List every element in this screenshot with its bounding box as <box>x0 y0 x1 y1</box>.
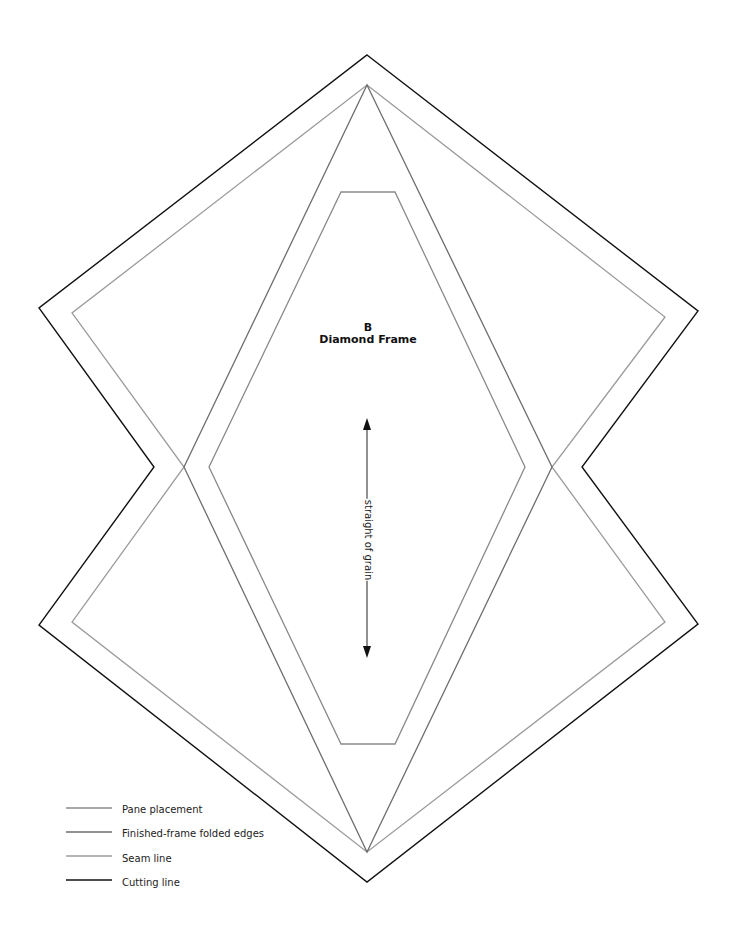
legend-swatches <box>66 808 112 880</box>
finished-frame-folded-edges <box>184 85 552 852</box>
legend-item-pane-placement: Pane placement <box>122 797 264 822</box>
legend-item-folded-edges: Finished-frame folded edges <box>122 822 264 847</box>
piece-title: B Diamond Frame <box>268 322 468 346</box>
legend: Pane placement Finished-frame folded edg… <box>122 797 264 895</box>
legend-item-cutting-line: Cutting line <box>122 871 264 896</box>
piece-name: Diamond Frame <box>268 334 468 346</box>
diamond-frame-pattern <box>0 0 738 939</box>
cutting-line <box>39 55 698 882</box>
seam-line <box>72 85 665 852</box>
legend-item-seam-line: Seam line <box>122 846 264 871</box>
grain-label: straight of grain <box>363 499 374 581</box>
